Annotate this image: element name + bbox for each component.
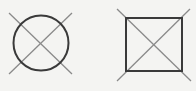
diagram-canvas <box>0 0 196 91</box>
background <box>0 0 196 91</box>
